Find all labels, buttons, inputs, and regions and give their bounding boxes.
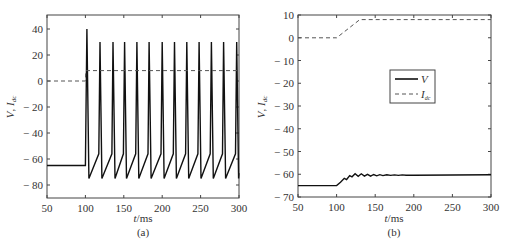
x-tick-label: 150: [116, 202, 133, 214]
y-axis-label-b: V, Idc: [255, 95, 269, 118]
y-tick-label: − 60: [23, 153, 43, 165]
x-tick-label: 50: [42, 202, 54, 214]
y-tick-label: − 20: [274, 77, 294, 89]
x-tick-label: 100: [77, 202, 94, 214]
x-tick-label: 300: [231, 202, 248, 214]
x-tick-label: 250: [444, 201, 461, 213]
x-tick-label: 50: [293, 201, 305, 213]
panel-a: 5010015020025030040200− 20− 40− 60− 80 t…: [4, 15, 248, 239]
series-line-i-dc: [298, 20, 491, 38]
caption-a: (a): [137, 226, 150, 239]
y-axis-label-a: V, Idc: [4, 95, 18, 118]
chart-canvas: 5010015020025030040200− 20− 40− 60− 80 t…: [0, 0, 508, 249]
y-tick-label: 0: [38, 75, 44, 87]
series-line-i-dc: [47, 71, 239, 81]
series-a: [47, 29, 239, 179]
series-line-v: [47, 29, 239, 179]
x-tick-label: 250: [192, 202, 209, 214]
x-tick-label: 200: [406, 201, 423, 213]
y-tick-label: − 20: [23, 101, 43, 113]
legend: V Idc: [390, 70, 435, 103]
y-tick-label: 0: [289, 32, 295, 44]
x-tick-label: 200: [154, 202, 171, 214]
y-tick-label: 20: [32, 49, 44, 61]
y-tick-label: − 70: [274, 191, 294, 203]
y-tick-label: − 80: [23, 179, 43, 191]
y-tick-label: − 10: [274, 55, 294, 67]
series-line-v: [298, 174, 491, 186]
y-tick-label: − 40: [23, 127, 43, 139]
x-tick-label: 150: [367, 201, 384, 213]
ticks-b: 50100150200250300100− 10− 20− 30− 40− 50…: [274, 9, 500, 213]
y-tick-label: − 40: [274, 123, 294, 135]
x-tick-label: 300: [483, 201, 500, 213]
y-tick-label: 40: [32, 23, 44, 35]
y-tick-label: − 50: [274, 146, 294, 158]
y-tick-label: 10: [283, 9, 295, 21]
x-axis-label-b: t/ms: [385, 212, 404, 224]
plot-frame-b: [298, 15, 491, 197]
x-tick-label: 100: [328, 201, 345, 213]
ticks-a: 5010015020025030040200− 20− 40− 60− 80: [23, 15, 248, 214]
figure: 5010015020025030040200− 20− 40− 60− 80 t…: [0, 0, 508, 249]
caption-b: (b): [388, 226, 401, 239]
y-tick-label: − 30: [274, 100, 294, 112]
panel-b: 50100150200250300100− 10− 20− 30− 40− 50…: [255, 9, 500, 239]
x-axis-label-a: t/ms: [134, 212, 153, 224]
y-tick-label: − 60: [274, 168, 294, 180]
